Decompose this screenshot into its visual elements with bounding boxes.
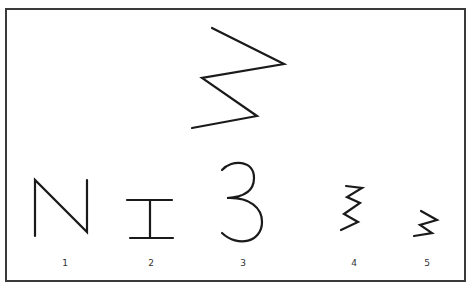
option-3-three-shape <box>222 163 262 242</box>
zigzag-stimulus-shape <box>192 28 284 128</box>
option-5-small-zigzag-shape <box>414 211 437 236</box>
option-label-5: 5 <box>424 258 430 268</box>
option-label-4: 4 <box>351 258 357 268</box>
option-1-n-shape <box>35 180 87 236</box>
option-label-1: 1 <box>62 258 68 268</box>
option-4-tight-zigzag-shape <box>341 186 362 230</box>
option-label-2: 2 <box>148 258 154 268</box>
figure-canvas <box>0 0 472 290</box>
option-2-ibeam-shape <box>127 200 173 238</box>
option-label-3: 3 <box>240 258 246 268</box>
